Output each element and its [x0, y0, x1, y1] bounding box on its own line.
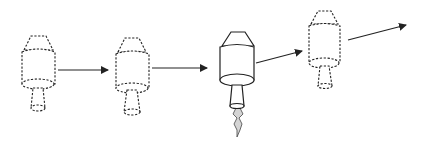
rocket-stage-3-firing [220, 32, 254, 137]
body-icon [116, 51, 149, 88]
nozzle-rim-icon [318, 84, 332, 89]
nozzle-rim-icon [31, 105, 45, 111]
body-icon [309, 24, 340, 63]
nozzle-rim-icon [124, 109, 140, 115]
rocket-sequence-diagram [0, 0, 425, 142]
body-icon [22, 49, 55, 84]
nose-cone-icon [222, 32, 254, 46]
body-base-icon [220, 74, 254, 86]
nose-cone-icon [118, 38, 146, 52]
nose-cone-icon [311, 11, 338, 24]
nozzle-rim-icon [230, 104, 244, 109]
nose-cone-icon [24, 36, 53, 50]
arrow-4-outgoing [348, 25, 406, 40]
nozzle-icon [230, 85, 244, 106]
rocket-stage-1 [22, 36, 55, 111]
arrow-3-to-4 [256, 51, 302, 63]
rocket-stage-4 [309, 11, 340, 89]
rocket-stage-2 [116, 38, 149, 115]
